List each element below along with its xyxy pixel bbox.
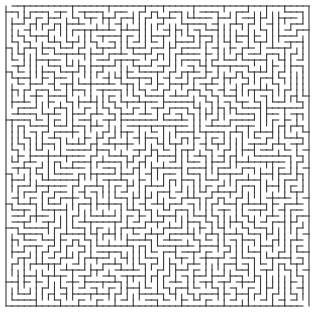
maze-container bbox=[0, 0, 315, 312]
maze-grid bbox=[0, 0, 315, 312]
